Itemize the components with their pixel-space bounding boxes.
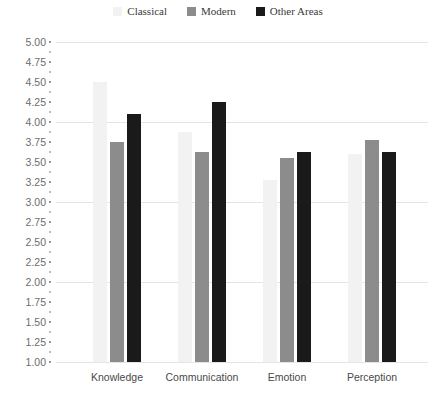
bar-chart: Classical Modern Other Areas 5.004.754.5… xyxy=(0,0,436,397)
legend-item-other-areas[interactable]: Other Areas xyxy=(256,6,323,17)
y-tick-label: 1.75 xyxy=(4,297,46,307)
bar-emotion-other-areas[interactable] xyxy=(297,152,311,362)
y-tick-label: 2.25 xyxy=(4,257,46,267)
y-tick-mark xyxy=(49,81,51,83)
y-tick-label: 4.50 xyxy=(4,77,46,87)
y-tick-label: 5.00 xyxy=(4,37,46,47)
y-tick-mark-minor xyxy=(49,291,51,293)
y-tick-mark-minor xyxy=(49,71,51,73)
bar-knowledge-other-areas[interactable] xyxy=(127,114,141,362)
y-tick-label: 3.00 xyxy=(4,197,46,207)
y-tick-mark xyxy=(49,261,51,263)
legend-label-modern: Modern xyxy=(201,6,236,17)
y-tick-label: 1.25 xyxy=(4,337,46,347)
bar-knowledge-modern[interactable] xyxy=(110,142,124,362)
y-tick-mark-minor xyxy=(49,51,51,53)
y-tick-mark-minor xyxy=(49,211,51,213)
y-tick-mark xyxy=(49,301,51,303)
bar-perception-modern[interactable] xyxy=(365,140,379,362)
y-tick-mark-minor xyxy=(49,271,51,273)
legend-label-classical: Classical xyxy=(127,6,167,17)
gridline xyxy=(56,362,428,363)
gridline xyxy=(56,122,428,123)
bar-perception-other-areas[interactable] xyxy=(382,152,396,362)
plot-area xyxy=(56,42,428,362)
y-tick-label: 2.50 xyxy=(4,237,46,247)
y-tick-label: 3.75 xyxy=(4,137,46,147)
y-tick-label: 3.50 xyxy=(4,157,46,167)
y-tick-mark xyxy=(49,41,51,43)
y-tick-label: 2.00 xyxy=(4,277,46,287)
y-tick-mark xyxy=(49,161,51,163)
y-tick-mark xyxy=(49,181,51,183)
legend-swatch-classical xyxy=(113,7,122,16)
y-tick-mark xyxy=(49,341,51,343)
y-tick-mark-minor xyxy=(49,111,51,113)
legend-label-other-areas: Other Areas xyxy=(270,6,323,17)
gridline xyxy=(56,42,428,43)
y-tick-mark-minor xyxy=(49,251,51,253)
y-tick-mark xyxy=(49,61,51,63)
y-tick-label: 2.75 xyxy=(4,217,46,227)
y-tick-mark-minor xyxy=(49,191,51,193)
x-tick-label-perception: Perception xyxy=(312,371,432,383)
y-tick-mark xyxy=(49,121,51,123)
y-tick-mark xyxy=(49,281,51,283)
y-tick-mark-minor xyxy=(49,151,51,153)
y-tick-mark-minor xyxy=(49,311,51,313)
y-tick-mark xyxy=(49,201,51,203)
y-tick-mark xyxy=(49,361,51,363)
y-tick-mark-minor xyxy=(49,351,51,353)
bar-knowledge-classical[interactable] xyxy=(93,82,107,362)
bar-communication-classical[interactable] xyxy=(178,132,192,362)
y-tick-mark-minor xyxy=(49,171,51,173)
y-tick-label: 1.50 xyxy=(4,317,46,327)
y-tick-label: 1.00 xyxy=(4,357,46,367)
y-tick-mark-minor xyxy=(49,231,51,233)
legend-swatch-modern xyxy=(187,7,196,16)
y-tick-mark xyxy=(49,101,51,103)
y-tick-mark xyxy=(49,141,51,143)
legend-item-classical[interactable]: Classical xyxy=(113,6,167,17)
y-tick-mark-minor xyxy=(49,91,51,93)
legend-swatch-other-areas xyxy=(256,7,265,16)
y-tick-label: 4.75 xyxy=(4,57,46,67)
bar-emotion-modern[interactable] xyxy=(280,158,294,362)
bar-communication-modern[interactable] xyxy=(195,152,209,362)
y-tick-mark xyxy=(49,241,51,243)
y-tick-mark-minor xyxy=(49,331,51,333)
bar-perception-classical[interactable] xyxy=(348,154,362,362)
bar-communication-other-areas[interactable] xyxy=(212,102,226,362)
y-tick-label: 4.25 xyxy=(4,97,46,107)
chart-legend: Classical Modern Other Areas xyxy=(0,3,436,19)
legend-item-modern[interactable]: Modern xyxy=(187,6,236,17)
y-tick-mark xyxy=(49,221,51,223)
y-tick-mark xyxy=(49,321,51,323)
bar-emotion-classical[interactable] xyxy=(263,180,277,362)
y-tick-label: 4.00 xyxy=(4,117,46,127)
y-tick-label: 3.25 xyxy=(4,177,46,187)
y-tick-mark-minor xyxy=(49,131,51,133)
